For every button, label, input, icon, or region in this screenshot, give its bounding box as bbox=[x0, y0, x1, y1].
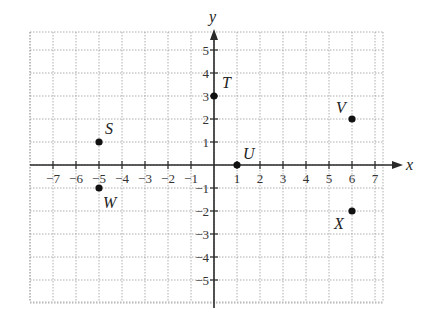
point-label: S bbox=[105, 120, 113, 137]
y-tick-label: −2 bbox=[195, 204, 209, 219]
x-tick-label: −3 bbox=[138, 171, 152, 186]
point-label: V bbox=[336, 99, 348, 116]
y-tick-label: −4 bbox=[195, 250, 209, 265]
y-tick-label: 2 bbox=[203, 112, 210, 127]
point-dot-icon bbox=[95, 184, 102, 191]
y-tick-label: 3 bbox=[203, 89, 210, 104]
point-label: U bbox=[243, 145, 256, 162]
x-axis-label: x bbox=[405, 156, 413, 173]
point-dot-icon bbox=[348, 207, 355, 214]
point-label: X bbox=[333, 215, 345, 232]
y-tick-label: −1 bbox=[195, 181, 209, 196]
axes: xy bbox=[30, 8, 413, 308]
x-tick-label: 1 bbox=[234, 171, 241, 186]
point-dot-icon bbox=[95, 138, 102, 145]
point-dot-icon bbox=[210, 92, 217, 99]
y-tick-label: 5 bbox=[203, 43, 210, 58]
x-tick-label: 3 bbox=[280, 171, 287, 186]
y-tick-label: 1 bbox=[203, 135, 210, 150]
x-axis-arrow-icon bbox=[392, 161, 403, 169]
x-tick-label: −7 bbox=[46, 171, 60, 186]
point-label: T bbox=[222, 74, 232, 91]
x-tick-label: −6 bbox=[69, 171, 83, 186]
x-tick-label: 2 bbox=[257, 171, 264, 186]
point-dot-icon bbox=[348, 115, 355, 122]
point-label: W bbox=[103, 194, 118, 211]
y-axis-arrow-icon bbox=[210, 29, 218, 40]
x-tick-label: 6 bbox=[349, 171, 356, 186]
y-tick-label: −5 bbox=[195, 273, 209, 288]
x-tick-label: −5 bbox=[92, 171, 106, 186]
coordinate-plane: xy −7−6−5−4−3−2−11234567−5−4−3−2−112345 … bbox=[0, 0, 435, 313]
y-axis-label: y bbox=[207, 8, 217, 26]
x-tick-label: 5 bbox=[326, 171, 333, 186]
y-tick-label: −3 bbox=[195, 227, 209, 242]
point-dot-icon bbox=[233, 161, 240, 168]
x-tick-label: −2 bbox=[161, 171, 175, 186]
x-tick-label: 7 bbox=[372, 171, 379, 186]
x-tick-label: −4 bbox=[115, 171, 129, 186]
plotted-points: STUVWX bbox=[95, 74, 355, 232]
x-tick-label: 4 bbox=[303, 171, 310, 186]
y-tick-label: 4 bbox=[203, 66, 210, 81]
point-s: S bbox=[95, 120, 113, 146]
